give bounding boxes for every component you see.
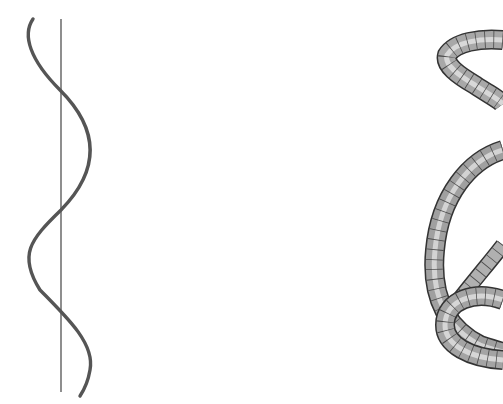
left-panel bbox=[28, 19, 90, 396]
sine-curve bbox=[28, 19, 90, 396]
tube-segment-top bbox=[447, 40, 503, 104]
tube-segment-bottom bbox=[445, 296, 503, 360]
diagram-figure bbox=[0, 0, 503, 404]
right-panel bbox=[434, 40, 503, 360]
